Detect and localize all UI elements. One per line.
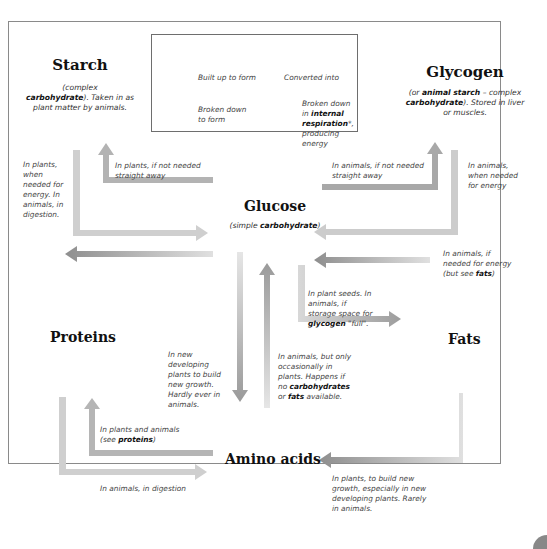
arrow-glucose-respiration bbox=[65, 246, 213, 262]
legend-built-up: Built up to form bbox=[198, 73, 256, 83]
note-proteins-to-amino: In animals, in digestion bbox=[100, 484, 220, 494]
note-glucose-to-amino: In new developing plants to build new gr… bbox=[168, 350, 230, 410]
note-amino-to-glucose: In animals, but only occasionally in pla… bbox=[278, 352, 353, 402]
node-glucose-desc: (simple carbohydrate) bbox=[215, 221, 335, 231]
note-fats-to-amino: In plants, to build new growth, especial… bbox=[332, 474, 427, 514]
node-glycogen-title: Glycogen bbox=[410, 63, 520, 81]
arrow-fats-to-glucose bbox=[314, 252, 430, 268]
node-fats-title: Fats bbox=[448, 331, 498, 347]
legend-box: Built up to form Converted into Broken d… bbox=[151, 34, 358, 132]
legend-respiration: Broken down in internal respiration*, pr… bbox=[302, 99, 357, 149]
legend-converted: Converted into bbox=[284, 73, 339, 83]
arrow-amino-to-glucose bbox=[259, 263, 275, 408]
note-fats-to-glucose: In animals, if needed for energy (but se… bbox=[443, 249, 518, 279]
node-starch-title: Starch bbox=[30, 56, 130, 74]
node-glucose-title: Glucose bbox=[225, 198, 325, 214]
note-starch-to-glucose: In plants, when needed for energy. In an… bbox=[23, 160, 73, 220]
node-proteins-title: Proteins bbox=[50, 329, 130, 345]
node-starch-desc: (complexcarbohydrate). Taken in as plant… bbox=[25, 83, 135, 113]
note-amino-to-proteins: In plants and animals (see proteins) bbox=[100, 425, 185, 445]
arrow-glucose-to-amino bbox=[232, 252, 248, 402]
arrow-fats-to-amino bbox=[319, 393, 463, 468]
node-amino-acids-title: Amino acids bbox=[225, 451, 335, 467]
note-glucose-to-glycogen: In animals, if not needed straight away bbox=[332, 161, 427, 181]
note-glucose-to-starch: In plants, if not needed straight away bbox=[115, 161, 205, 181]
note-glycogen-to-glucose: In animals, when needed for energy bbox=[468, 161, 523, 191]
legend-broken-down: Broken downto form bbox=[198, 105, 246, 125]
note-glucose-to-fats: In plant seeds. In animals, if storage s… bbox=[308, 289, 373, 329]
node-glycogen-desc: (or animal starch – complex carbohydrate… bbox=[405, 88, 525, 118]
